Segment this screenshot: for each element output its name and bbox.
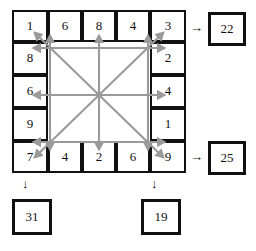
cell-r2c0: 6 <box>12 75 48 108</box>
cell-r0c1: 6 <box>48 10 82 42</box>
result-box-right-bottom: 25 <box>208 141 246 175</box>
result-value: 25 <box>221 151 234 164</box>
connector-arrow-right-top: → <box>190 21 203 34</box>
result-box-bottom-right: 19 <box>141 199 181 235</box>
number-frame-grid: 1 6 8 4 3 8 2 6 4 9 1 7 4 2 6 <box>12 10 186 173</box>
result-value: 31 <box>26 210 39 223</box>
cell-r0c2: 8 <box>82 10 116 42</box>
cell-value: 3 <box>165 19 172 32</box>
cell-r0c3: 4 <box>116 10 150 42</box>
cell-value: 7 <box>27 150 34 163</box>
cell-value: 1 <box>27 19 34 32</box>
cell-value: 4 <box>62 150 69 163</box>
connector-arrow-down-left: ↓ <box>22 177 29 190</box>
cell-value: 9 <box>27 117 34 130</box>
cell-value: 6 <box>27 84 34 97</box>
cell-value: 1 <box>165 117 172 130</box>
cell-r3c0: 9 <box>12 108 48 141</box>
cell-r0c0: 1 <box>12 10 48 42</box>
cell-r4c3: 6 <box>116 141 150 173</box>
cell-r4c2: 2 <box>82 141 116 173</box>
cell-r1c4: 2 <box>150 42 186 75</box>
cell-value: 4 <box>165 84 172 97</box>
cell-value: 6 <box>62 19 69 32</box>
connector-arrow-right-bottom: → <box>190 150 203 163</box>
cell-r2c4: 4 <box>150 75 186 108</box>
cell-value: 8 <box>96 19 103 32</box>
cell-value: 9 <box>165 150 172 163</box>
result-box-bottom-left: 31 <box>12 199 52 235</box>
cell-value: 2 <box>96 150 103 163</box>
result-value: 19 <box>155 210 168 223</box>
cell-value: 8 <box>27 51 34 64</box>
cell-value: 6 <box>130 150 137 163</box>
cell-r4c4: 9 <box>150 141 186 173</box>
cell-r4c0: 7 <box>12 141 48 173</box>
result-value: 22 <box>221 22 234 35</box>
connector-arrow-down-right: ↓ <box>151 177 158 190</box>
cell-value: 4 <box>130 19 137 32</box>
cell-value: 2 <box>165 51 172 64</box>
cell-r0c4: 3 <box>150 10 186 42</box>
puzzle-figure: 1 6 8 4 3 8 2 6 4 9 1 7 4 2 6 <box>0 0 256 251</box>
result-box-right-top: 22 <box>208 12 246 46</box>
cell-r3c4: 1 <box>150 108 186 141</box>
cell-r4c1: 4 <box>48 141 82 173</box>
cell-r1c0: 8 <box>12 42 48 75</box>
